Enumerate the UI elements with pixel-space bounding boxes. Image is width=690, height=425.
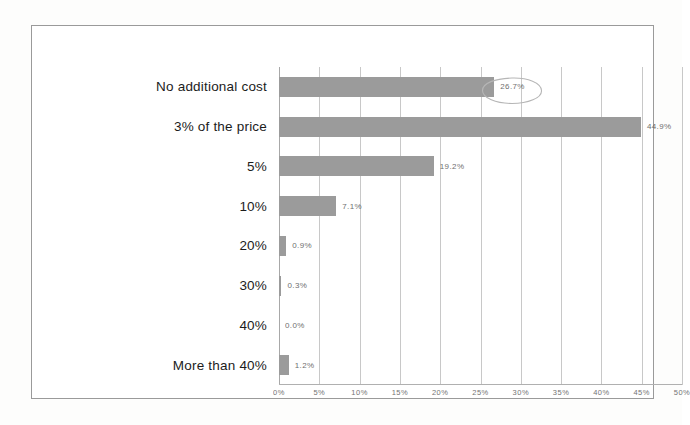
- bar-value-label: 7.1%: [342, 202, 362, 211]
- bar-value-label: 26.7%: [500, 82, 525, 91]
- bar: [279, 355, 289, 375]
- plot-area: 26.7%44.9%19.2%7.1%0.9%0.3%0.0%1.2%: [279, 67, 682, 385]
- x-tick-label: 20%: [432, 388, 449, 397]
- x-tick-label: 35%: [553, 388, 570, 397]
- category-label: 10%: [239, 186, 267, 226]
- x-tick-label: 40%: [593, 388, 610, 397]
- category-label: 20%: [239, 226, 267, 266]
- x-tick-label: 45%: [633, 388, 650, 397]
- bar-value-label: 1.2%: [295, 361, 315, 370]
- bar: [279, 156, 434, 176]
- bar-row: 0.9%: [279, 226, 682, 266]
- bar-value-label: 0.0%: [285, 321, 305, 330]
- x-tick-label: 5%: [313, 388, 325, 397]
- bar-row: 0.3%: [279, 266, 682, 306]
- category-label: 5%: [247, 147, 267, 187]
- bar: [279, 236, 286, 256]
- x-tick-label: 10%: [351, 388, 368, 397]
- x-tick-label: 0%: [273, 388, 285, 397]
- bar: [279, 117, 641, 137]
- category-label: More than 40%: [173, 345, 267, 385]
- bar-row: 19.2%: [279, 147, 682, 187]
- bar: [279, 276, 281, 296]
- x-tick-label: 30%: [513, 388, 530, 397]
- x-tick-label: 50%: [674, 388, 690, 397]
- bar-series: 26.7%44.9%19.2%7.1%0.9%0.3%0.0%1.2%: [279, 67, 682, 385]
- category-label: 40%: [239, 306, 267, 346]
- bar-row: 44.9%: [279, 107, 682, 147]
- gridline: [682, 67, 683, 385]
- category-label: No additional cost: [156, 67, 267, 107]
- x-axis-tick-labels: 0%5%10%15%20%25%30%35%40%45%50%: [279, 388, 682, 406]
- bar: [279, 77, 494, 97]
- bar-value-label: 0.3%: [287, 281, 307, 290]
- category-label: 30%: [239, 266, 267, 306]
- bar: [279, 196, 336, 216]
- chart-frame: No additional cost 3% of the price 5% 10…: [31, 25, 654, 399]
- bar-row: 7.1%: [279, 186, 682, 226]
- bar-row: 0.0%: [279, 306, 682, 346]
- bar-row: 1.2%: [279, 345, 682, 385]
- x-tick-label: 15%: [392, 388, 409, 397]
- x-tick-label: 25%: [472, 388, 489, 397]
- category-label: 3% of the price: [174, 107, 267, 147]
- bar-value-label: 44.9%: [647, 122, 672, 131]
- category-axis-labels: No additional cost 3% of the price 5% 10…: [77, 67, 273, 385]
- bar-value-label: 0.9%: [292, 241, 312, 250]
- bar-row: 26.7%: [279, 67, 682, 107]
- bar-value-label: 19.2%: [440, 162, 465, 171]
